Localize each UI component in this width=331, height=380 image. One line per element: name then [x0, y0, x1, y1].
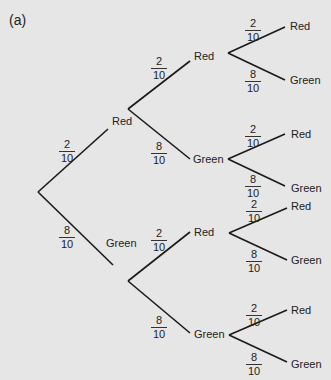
prob-rr-red: 210 [245, 18, 261, 43]
prob-r-green: 810 [151, 141, 167, 166]
prob-gr-green: 810 [246, 249, 262, 274]
leaf-rrr: Red [290, 20, 310, 32]
node-l2-gg: Green [194, 328, 225, 340]
prob-root-red: 210 [59, 139, 75, 164]
leaf-grr: Red [291, 200, 311, 212]
node-l1-green: Green [106, 237, 137, 249]
figure-label: (a) [9, 12, 26, 28]
leaf-ggg: Green [291, 358, 322, 370]
prob-g-red: 210 [151, 228, 167, 253]
node-l2-rg: Green [193, 153, 224, 165]
prob-rg-red: 210 [245, 124, 261, 149]
prob-gg-green: 810 [246, 352, 262, 377]
node-l1-red: Red [112, 115, 132, 127]
leaf-ggr: Red [291, 304, 311, 316]
prob-rr-green: 810 [245, 69, 261, 94]
prob-root-green: 810 [59, 225, 75, 250]
prob-g-green: 810 [151, 315, 167, 340]
prob-gr-red: 210 [246, 199, 262, 224]
node-l2-rr: Red [194, 50, 214, 62]
leaf-rgr: Red [291, 128, 311, 140]
leaf-rgg: Green [291, 182, 322, 194]
leaf-rrg: Green [290, 74, 321, 86]
prob-r-red: 210 [151, 56, 167, 81]
node-l2-gr: Red [194, 226, 214, 238]
prob-gg-red: 210 [246, 303, 262, 328]
leaf-grg: Green [291, 254, 322, 266]
prob-rg-green: 810 [245, 174, 261, 199]
